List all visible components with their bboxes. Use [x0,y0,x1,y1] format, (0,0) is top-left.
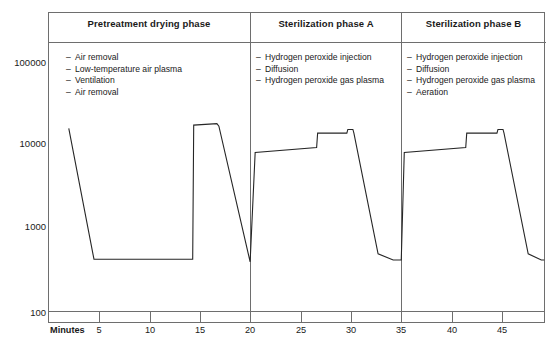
phase-title-sterilization-b: Sterilization phase B [402,18,545,29]
ytick-label-100000: 100000 [0,57,46,68]
list-item: – Diffusion [256,64,384,76]
dash-bullet-icon: – [407,87,412,99]
xtick-mark-30 [351,312,352,323]
list-item: – Diffusion [407,64,535,76]
list-item: – Hydrogen peroxide gas plasma [407,75,535,87]
dash-bullet-icon: – [256,52,261,64]
xtick-mark-35 [401,312,402,323]
list-item-label: Low-temperature air plasma [75,64,182,74]
dash-bullet-icon: – [256,75,261,87]
xtick-label-30: 30 [336,325,366,335]
list-item-label: Hydrogen peroxide injection [416,52,523,62]
list-item-label: Air removal [75,52,118,62]
xtick-mark-25 [301,312,302,323]
phase-steps-pretreatment: – Air removal – Low-temperature air plas… [66,52,182,98]
list-item: – Hydrogen peroxide injection [407,52,535,64]
dash-bullet-icon: – [66,52,71,64]
phase-title-pretreatment: Pretreatment drying phase [48,18,250,29]
xtick-mark-20 [250,312,251,323]
xtick-mark-5 [99,312,100,323]
xtick-label-5: 5 [84,325,114,335]
list-item-label: Diffusion [416,64,449,74]
phase-title-sterilization-a: Sterilization phase A [251,18,401,29]
ytick-label-10000: 10000 [0,138,46,149]
xtick-label-25: 25 [286,325,316,335]
list-item-label: Air removal [75,87,118,97]
phase-steps-sterilization-a: – Hydrogen peroxide injection – Diffusio… [256,52,384,87]
xtick-label-20: 20 [235,325,265,335]
x-axis-strip [48,312,545,323]
xtick-label-45: 45 [487,325,517,335]
list-item-label: Diffusion [265,64,298,74]
ytick-label-100: 100 [0,307,46,318]
phase-steps-sterilization-b: – Hydrogen peroxide injection – Diffusio… [407,52,535,98]
xtick-mark-10 [150,312,151,323]
list-item: – Hydrogen peroxide injection [256,52,384,64]
list-item: – Air removal [66,87,182,99]
dash-bullet-icon: – [407,64,412,76]
ytick-label-1000: 1000 [0,221,46,232]
dash-bullet-icon: – [66,87,71,99]
list-item-label: Hydrogen peroxide gas plasma [265,75,384,85]
xtick-label-10: 10 [135,325,165,335]
phase-header-separator [48,42,546,43]
list-item-label: Hydrogen peroxide gas plasma [416,75,535,85]
phase-divider-2 [401,12,402,313]
list-item-label: Ventilation [75,75,115,85]
dash-bullet-icon: – [66,75,71,87]
list-item: – Low-temperature air plasma [66,64,182,76]
list-item: – Hydrogen peroxide gas plasma [256,75,384,87]
list-item: – Aeration [407,87,535,99]
dash-bullet-icon: – [66,64,71,76]
xtick-mark-15 [200,312,201,323]
list-item-label: Aeration [416,87,448,97]
list-item-label: Hydrogen peroxide injection [265,52,372,62]
xtick-mark-40 [452,312,453,323]
list-item: – Ventilation [66,75,182,87]
list-item: – Air removal [66,52,182,64]
xtick-label-15: 15 [185,325,215,335]
phase-divider-1 [250,12,251,313]
figure-root: Pretreatment drying phase Sterilization … [0,0,560,346]
xtick-label-40: 40 [437,325,467,335]
xtick-mark-45 [502,312,503,323]
dash-bullet-icon: – [407,52,412,64]
dash-bullet-icon: – [407,75,412,87]
xtick-label-35: 35 [386,325,416,335]
dash-bullet-icon: – [256,64,261,76]
x-axis-caption: Minutes [50,325,85,335]
